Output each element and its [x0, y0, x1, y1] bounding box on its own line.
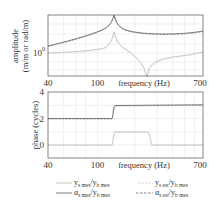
phase-y-mes-curve [48, 132, 203, 145]
amplitude-grid [48, 15, 203, 76]
phase-xtick-100: 100 [91, 160, 105, 170]
legend-label-3: αs mes/yb mes [74, 188, 110, 198]
legend: ys mes/yb mes ys est/yb mes αs mes/yb me… [56, 178, 188, 198]
amplitude-plot: 10 0 amplitude (m/m or rad/m) 40 100 700… [10, 15, 207, 88]
phase-xlabel: frequency (Hz) [118, 160, 170, 170]
legend-label-2: ys est/yb mes [155, 178, 188, 188]
legend-item-alpha-s-mes: αs mes/yb mes [56, 188, 110, 198]
amplitude-ylabel: amplitude (m/m or rad/m) [10, 20, 30, 73]
amplitude-xtick-700: 700 [193, 78, 207, 88]
phase-alpha-mes-curve [48, 105, 203, 119]
legend-label-4: αs est/yb mes [155, 188, 188, 198]
phase-ytick-0: 0 [40, 140, 45, 150]
amplitude-alpha-est-curve [48, 16, 203, 47]
amplitude-xtick-40: 40 [44, 78, 54, 88]
legend-item-y-s-est: ys est/yb mes [138, 178, 188, 188]
legend-item-y-s-mes: ys mes/yb mes [56, 178, 110, 188]
phase-xtick-40: 40 [44, 160, 54, 170]
phase-ytick-2: 2 [40, 114, 45, 124]
amplitude-xlabel: frequency (Hz) [118, 78, 170, 88]
legend-label-1: ys mes/yb mes [74, 178, 110, 188]
phase-xtick-700: 700 [193, 160, 207, 170]
amplitude-ytick-exp: 0 [42, 46, 45, 52]
phase-alpha-est-curve [48, 105, 203, 119]
phase-grid [48, 92, 203, 158]
legend-item-alpha-s-est: αs est/yb mes [136, 188, 188, 198]
amplitude-ylabel-line2: (m/m or rad/m) [20, 20, 30, 73]
amplitude-ylabel-line1: amplitude [10, 29, 20, 63]
amplitude-xtick-100: 100 [91, 78, 105, 88]
bode-figure: 10 0 amplitude (m/m or rad/m) 40 100 700… [0, 0, 217, 212]
phase-ytick-4: 4 [40, 87, 45, 97]
phase-plot: 4 2 0 phase (cycles) 40 100 700 frequenc… [30, 87, 207, 170]
phase-frame [48, 92, 203, 158]
phase-y-est-curve [48, 133, 203, 146]
phase-ylabel: phase (cycles) [30, 101, 40, 150]
